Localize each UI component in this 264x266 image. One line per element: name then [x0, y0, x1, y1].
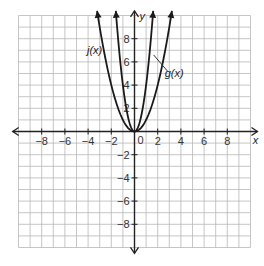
- x-tick-label: −2: [105, 135, 118, 147]
- y-tick-label: −4: [117, 172, 130, 184]
- y-tick-label: −8: [117, 218, 130, 230]
- x-tick-label: −8: [35, 135, 48, 147]
- j-function-label: j(x): [85, 44, 103, 56]
- curve-arrow-icon: [149, 11, 156, 18]
- g-function-label: g(x): [165, 67, 184, 79]
- coordinate-plane: −8−6−4−22468−8−6−4−224680 x y j(x) g(x): [0, 0, 264, 266]
- y-tick-label: −6: [117, 195, 130, 207]
- x-tick-label: −6: [59, 135, 72, 147]
- x-axis-label: x: [252, 134, 259, 146]
- curve-arrow-icon: [113, 11, 120, 18]
- y-tick-label: 8: [123, 33, 129, 45]
- x-tick-label: −4: [82, 135, 95, 147]
- x-tick-label: 4: [178, 135, 184, 147]
- y-axis-label: y: [139, 10, 147, 22]
- x-tick-label: 6: [201, 135, 207, 147]
- origin-label: 0: [138, 134, 144, 146]
- y-tick-label: 6: [123, 56, 129, 68]
- x-tick-label: 8: [224, 135, 230, 147]
- x-tick-label: 2: [155, 135, 161, 147]
- y-tick-label: −2: [117, 149, 130, 161]
